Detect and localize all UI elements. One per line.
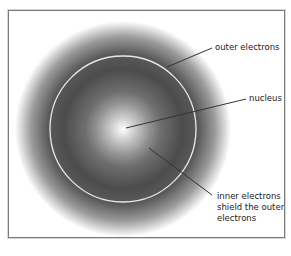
- label-inner-electrons-line2: shield the outer: [217, 202, 284, 213]
- label-inner-electrons-line3: electrons: [217, 213, 284, 224]
- label-inner-electrons: inner electrons shield the outer electro…: [217, 191, 284, 224]
- diagram-frame: outer electrons nucleus inner electrons …: [8, 10, 285, 238]
- label-nucleus: nucleus: [249, 93, 282, 104]
- label-inner-electrons-line1: inner electrons: [217, 191, 284, 202]
- label-outer-electrons: outer electrons: [215, 42, 280, 53]
